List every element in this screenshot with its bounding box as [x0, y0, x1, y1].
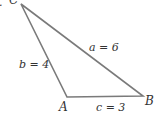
- vertex-b-label: B: [144, 94, 154, 108]
- side-a-label: a = 6: [89, 41, 119, 54]
- side-b-label: b = 4: [19, 58, 49, 71]
- triangle-diagram: . C A B b = 4 a = 6 c = 3: [0, 0, 158, 117]
- side-c-label: c = 3: [96, 101, 125, 114]
- vertex-a-label: A: [58, 100, 68, 114]
- vertex-c-label: C: [9, 0, 18, 7]
- triangle-abc: [21, 4, 143, 97]
- figure-marker: .: [0, 0, 3, 9]
